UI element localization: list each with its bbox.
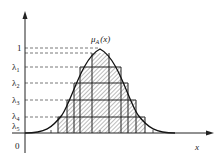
y-label-lambda3: λ3	[12, 95, 19, 106]
x-axis-arrow-icon	[206, 131, 214, 136]
hatched-region	[58, 53, 145, 133]
y-label-1: 1	[17, 43, 22, 53]
x-axis-label: x	[194, 142, 199, 152]
y-label-lambda5: λ5	[12, 121, 19, 132]
y-label-lambda2: λ2	[12, 78, 19, 89]
origin-label: 0	[15, 141, 20, 151]
curve-label: μA(x)	[90, 34, 110, 45]
y-label-lambda1: λ1	[12, 62, 19, 73]
membership-function-diagram: μA(x) 1 λ1 λ2 λ3 λ4 λ5 0 x	[0, 0, 222, 157]
y-axis-arrow-icon	[23, 11, 28, 19]
